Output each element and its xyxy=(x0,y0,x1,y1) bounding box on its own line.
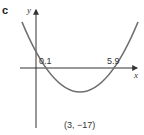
root-right-label: 5.9 xyxy=(107,56,120,66)
parabola-chart: y x 0.1 5.9 (3, −17) xyxy=(0,0,144,135)
y-axis-label: y xyxy=(26,5,31,15)
root-left-label: 0.1 xyxy=(39,56,52,66)
x-axis-label: x xyxy=(133,70,138,80)
vertex-label: (3, −17) xyxy=(64,120,95,130)
